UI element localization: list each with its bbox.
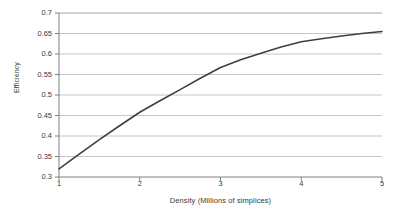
- x-axis-title: Density (Millions of simplices): [59, 196, 382, 205]
- data-series-line: [59, 31, 382, 168]
- x-tick-label-wrap: 5: [372, 180, 392, 192]
- x-tick-label: 1: [49, 180, 69, 188]
- x-tick-label: 4: [291, 180, 311, 188]
- x-tick-label: 5: [372, 180, 392, 188]
- x-tick-label-wrap: 2: [130, 180, 150, 192]
- x-tick-label: 2: [130, 180, 150, 188]
- x-tick-label-wrap: 1: [49, 180, 69, 192]
- x-tick-label: 3: [211, 180, 231, 188]
- y-axis-tick-marks: [55, 13, 59, 177]
- x-tick-label-wrap: 4: [291, 180, 311, 192]
- chart-container: Efficiency 0.30.350.40.450.50.550.60.650…: [0, 0, 402, 218]
- x-tick-label-wrap: 3: [211, 180, 231, 192]
